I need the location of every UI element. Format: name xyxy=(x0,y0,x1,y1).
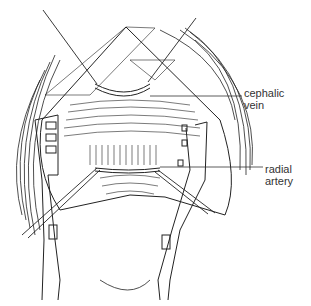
cephalic-vein-structure xyxy=(95,84,150,96)
muscle-fibers xyxy=(64,100,200,194)
cephalic-vein-label: cephalic vein xyxy=(244,87,284,111)
radial-artery-structure xyxy=(95,168,160,173)
surgical-illustration xyxy=(0,0,311,306)
incision-outline xyxy=(40,27,231,215)
cephalic-vein-label-line1: cephalic xyxy=(244,87,284,99)
radial-artery-label: radial artery xyxy=(265,163,293,187)
outer-skin-hatching xyxy=(16,28,252,290)
radial-artery-label-line2: artery xyxy=(265,175,293,187)
right-retractor xyxy=(158,122,207,300)
left-retractor xyxy=(35,115,60,300)
cephalic-vein-label-line2: vein xyxy=(244,99,284,111)
radial-artery-label-line1: radial xyxy=(265,163,293,175)
